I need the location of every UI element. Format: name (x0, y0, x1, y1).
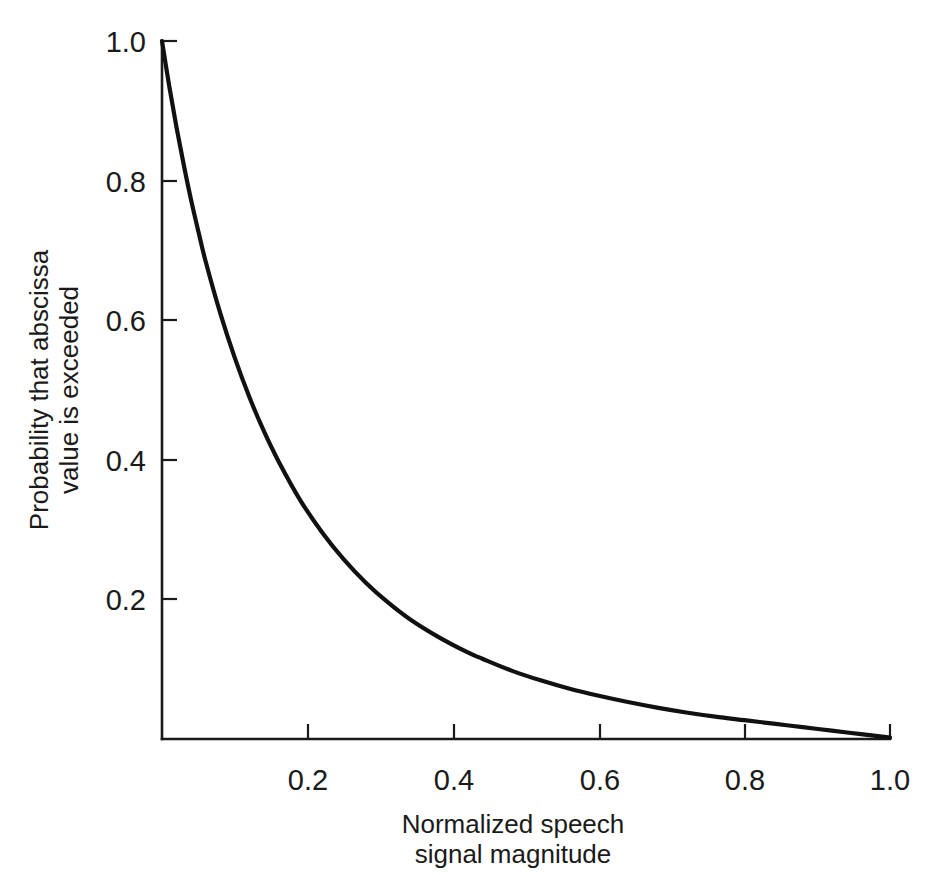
x-tick-label-0.4: 0.4 (434, 764, 474, 796)
exceedance-probability-chart: 1.0 0.8 0.6 0.4 0.2 0.2 0.4 0.6 0.8 1.0 … (0, 0, 934, 875)
x-axis-title-line2: signal magnitude (415, 839, 612, 869)
y-tick-label-1.0: 1.0 (106, 26, 146, 58)
y-axis-title-line2: value is exceeded (54, 286, 84, 494)
x-tick-label-0.8: 0.8 (725, 764, 765, 796)
y-tick-label-0.4: 0.4 (106, 445, 146, 477)
x-tick-label-0.6: 0.6 (580, 764, 620, 796)
x-axis-title-line1: Normalized speech (402, 809, 625, 839)
y-tick-label-0.8: 0.8 (106, 166, 146, 198)
x-tick-label-0.2: 0.2 (288, 764, 328, 796)
figure-container: 1.0 0.8 0.6 0.4 0.2 0.2 0.4 0.6 0.8 1.0 … (0, 0, 934, 875)
data-curve-exceedance-probability (162, 41, 890, 738)
y-tick-label-0.2: 0.2 (106, 584, 146, 616)
y-axis-title-line1: Probability that abscissa (24, 249, 54, 530)
x-tick-label-1.0: 1.0 (870, 764, 910, 796)
y-tick-label-0.6: 0.6 (106, 305, 146, 337)
